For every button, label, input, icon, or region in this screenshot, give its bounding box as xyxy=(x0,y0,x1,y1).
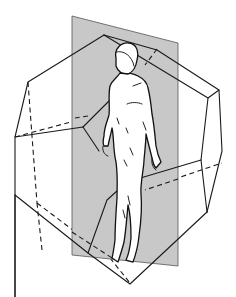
figure-head xyxy=(116,43,138,74)
diagram-canvas xyxy=(0,0,236,297)
